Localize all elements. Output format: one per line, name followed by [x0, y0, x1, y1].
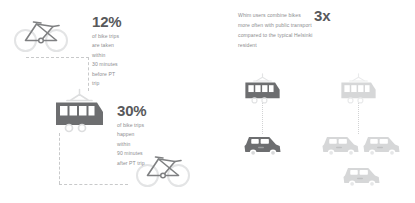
bicycle-icon-top	[13, 17, 69, 53]
tram-icon-typical	[335, 73, 382, 105]
dotted-connector-typical	[358, 102, 359, 134]
car-icon-typical-2	[359, 131, 404, 161]
stat-block-after: 30% of bike trips happen within 90 minut…	[117, 103, 146, 168]
stat-block-before: 12% of bike trips are taken within 30 mi…	[92, 14, 121, 89]
stat-desc-before-line2: 30 minutes before PT trip	[92, 60, 121, 88]
stat-desc-after-line2: 90 minutes after PT trip	[117, 149, 146, 168]
car-icon-typical-1	[318, 131, 363, 161]
headline-multiplier: 3x	[314, 8, 330, 23]
car-icon-whim-1	[240, 131, 285, 161]
tram-icon-left	[49, 88, 110, 135]
tram-icon-whim	[239, 73, 286, 105]
stat-desc-before-line1: of bike trips are taken within	[92, 32, 121, 60]
headline-line1: Whim users combine bikes	[238, 11, 316, 21]
headline-block: 3x Whim users combine bikes more often w…	[238, 11, 346, 51]
dashed-connector-horizontal-top	[26, 57, 89, 58]
dashed-connector-horizontal-bottom	[59, 184, 128, 185]
dashed-connector-vertical-bottom	[59, 133, 60, 184]
car-icon-typical-3	[339, 162, 384, 192]
dotted-connector-whim	[262, 102, 263, 134]
headline-line3: compared to the typical Helsinki	[238, 31, 316, 41]
stat-desc-after-line1: of bike trips happen within	[117, 121, 146, 149]
dashed-connector-vertical-top	[88, 57, 89, 91]
stat-value-before: 12%	[92, 14, 121, 29]
stat-value-after: 30%	[117, 103, 146, 118]
headline-line4: resident	[238, 41, 316, 51]
headline-line2: more often with public transport	[238, 21, 316, 31]
